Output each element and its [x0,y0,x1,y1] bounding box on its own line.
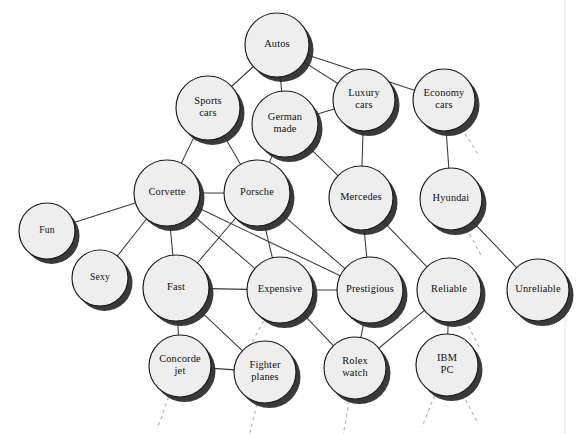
node-fun[interactable]: Fun [19,203,80,264]
node-label-line: Reliable [431,283,467,294]
node-mercedes[interactable]: Mercedes [329,166,398,235]
node-label-fast: Fast [167,281,185,292]
node-label-line: Expensive [258,283,303,294]
node-label-corvette: Corvette [149,186,186,197]
node-reliable[interactable]: Reliable [417,258,486,327]
node-expensive[interactable]: Expensive [247,257,318,328]
node-label-line: cars [435,99,452,110]
node-luxury_cars[interactable]: Luxurycars [333,69,400,136]
node-label-fighter_planes: Fighterplanes [249,359,280,382]
node-label-line: German [268,111,303,122]
node-label-line: Luxury [348,87,380,98]
node-label-sexy: Sexy [90,271,110,282]
node-label-line: Mercedes [340,191,382,202]
node-label-rolex_watch: Rolexwatch [342,355,368,378]
node-label-expensive: Expensive [258,283,303,294]
node-label-line: Unreliable [515,283,561,294]
node-fighter_planes[interactable]: Fighterplanes [234,341,301,408]
node-label-line: Concorde [159,353,201,364]
node-unreliable[interactable]: Unreliable [507,259,574,326]
node-label-line: watch [342,367,368,378]
node-label-line: cars [199,107,216,118]
node-label-line: Autos [264,38,290,49]
node-ibm_pc[interactable]: IBMPC [416,334,483,401]
node-concorde_jet[interactable]: Concordejet [149,335,216,402]
node-fast[interactable]: Fast [143,255,214,326]
edge-porsche-to-fast [197,218,236,264]
node-economy_cars[interactable]: Economycars [413,69,480,136]
node-label-hyundai: Hyundai [433,192,470,203]
node-label-line: Sports [194,95,221,106]
stub-rolex_watch-6 [343,400,349,433]
edge-hyundai-to-unreliable [472,221,517,268]
node-label-prestigious: Prestigious [346,283,394,294]
edge-luxury_cars-to-mercedes [362,130,363,166]
node-layer: AutosSportscarsGermanmadeLuxurycarsEcono… [19,13,574,408]
semantic-network-diagram: AutosSportscarsGermanmadeLuxurycarsEcono… [0,0,583,434]
node-sports_cars[interactable]: Sportscars [176,76,245,145]
node-label-unreliable: Unreliable [515,283,561,294]
node-label-line: Sexy [90,271,110,282]
node-label-line: planes [251,371,278,382]
stub-hyundai-1 [466,228,481,256]
node-german_made[interactable]: Germanmade [252,91,323,162]
stub-fighter_planes-5 [249,404,257,434]
node-label-line: Prestigious [346,283,394,294]
edge-german_made-to-luxury_cars [316,109,335,115]
edge-fast-to-fighter_planes [200,310,243,351]
node-label-line: Hyundai [433,192,470,203]
edge-mercedes-to-reliable [383,221,427,267]
stub-ibm_pc-7 [422,396,435,428]
node-autos[interactable]: Autos [245,13,314,82]
node-label-line: PC [440,364,453,375]
node-label-line: IBM [437,352,457,363]
stub-ibm_pc-8 [462,394,478,424]
node-label-porsche: Porsche [240,186,274,197]
node-porsche[interactable]: Porsche [224,160,295,231]
node-label-line: Fast [167,281,185,292]
node-sexy[interactable]: Sexy [72,250,133,311]
node-label-line: Rolex [342,355,368,366]
node-label-line: jet [174,365,186,376]
network-canvas: AutosSportscarsGermanmadeLuxurycarsEcono… [0,0,583,434]
edge-economy_cars-to-hyundai [446,130,449,168]
node-label-line: Corvette [149,186,186,197]
node-label-line: made [273,123,296,134]
edge-sports_cars-to-corvette [181,136,194,163]
edge-autos-to-sports_cars [231,66,253,87]
edge-fast-to-expensive [208,289,247,290]
node-hyundai[interactable]: Hyundai [420,168,487,235]
node-label-mercedes: Mercedes [340,191,382,202]
stub-concorde_jet-4 [157,397,169,429]
edge-corvette-to-sexy [117,219,147,257]
node-label-fun: Fun [39,224,55,235]
node-label-line: cars [355,99,372,110]
node-label-line: Economy [424,87,466,98]
node-prestigious[interactable]: Prestigious [337,257,408,328]
node-label-line: Porsche [240,186,274,197]
node-corvette[interactable]: Corvette [134,160,205,231]
node-label-autos: Autos [264,38,290,49]
node-label-line: Fighter [249,359,280,370]
edge-corvette-to-fun [73,203,136,223]
node-label-reliable: Reliable [431,283,467,294]
node-label-line: Fun [39,224,55,235]
